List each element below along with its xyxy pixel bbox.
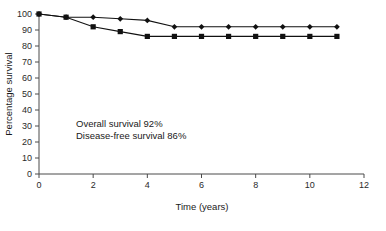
- data-point-square: [63, 15, 68, 20]
- y-tick-label: 80: [22, 41, 32, 51]
- data-point-square: [172, 34, 177, 39]
- data-point-square: [307, 34, 312, 39]
- x-axis: 024681012: [36, 174, 369, 190]
- y-tick-label: 70: [22, 57, 32, 67]
- data-point-diamond: [226, 24, 232, 30]
- data-point-diamond: [172, 24, 178, 30]
- y-axis-title: Percentage survival: [3, 52, 14, 135]
- y-tick-label: 100: [17, 9, 32, 19]
- y-tick-label: 60: [22, 73, 32, 83]
- data-point-diamond: [334, 24, 340, 30]
- series-2: [36, 11, 339, 39]
- series-line: [39, 14, 337, 27]
- y-tick-label: 50: [22, 89, 32, 99]
- survival-chart: 0102030405060708090100 024681012 Percent…: [0, 0, 386, 231]
- series-1: [36, 11, 340, 30]
- data-point-square: [199, 34, 204, 39]
- y-tick-label: 30: [22, 121, 32, 131]
- data-point-square: [226, 34, 231, 39]
- x-tick-label: 4: [145, 180, 150, 190]
- y-tick-label: 10: [22, 153, 32, 163]
- data-point-square: [334, 34, 339, 39]
- data-point-diamond: [280, 24, 286, 30]
- x-tick-label: 10: [305, 180, 315, 190]
- data-point-square: [36, 11, 41, 16]
- annotation-disease-free-survival: Disease-free survival 86%: [76, 130, 187, 141]
- data-point-square: [253, 34, 258, 39]
- data-point-diamond: [307, 24, 313, 30]
- data-point-square: [280, 34, 285, 39]
- data-point-diamond: [199, 24, 205, 30]
- data-point-diamond: [117, 16, 123, 22]
- data-point-diamond: [144, 18, 150, 24]
- y-tick-label: 90: [22, 25, 32, 35]
- data-point-diamond: [253, 24, 259, 30]
- y-tick-label: 0: [27, 169, 32, 179]
- x-axis-title: Time (years): [176, 201, 229, 212]
- series-layer: [36, 11, 340, 39]
- y-axis: 0102030405060708090100: [17, 9, 39, 179]
- y-tick-label: 40: [22, 105, 32, 115]
- x-tick-label: 0: [36, 180, 41, 190]
- x-tick-label: 2: [91, 180, 96, 190]
- annotation-overall-survival: Overall survival 92%: [76, 118, 163, 129]
- y-tick-label: 20: [22, 137, 32, 147]
- x-tick-label: 12: [359, 180, 369, 190]
- data-point-diamond: [90, 14, 96, 20]
- x-tick-label: 8: [253, 180, 258, 190]
- x-tick-label: 6: [199, 180, 204, 190]
- data-point-square: [145, 34, 150, 39]
- chart-canvas: 0102030405060708090100 024681012 Percent…: [0, 0, 386, 231]
- data-point-square: [91, 24, 96, 29]
- data-point-square: [118, 29, 123, 34]
